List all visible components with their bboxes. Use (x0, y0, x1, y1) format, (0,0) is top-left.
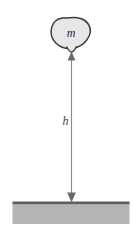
ground-surface-line (13, 202, 130, 205)
height-label: h (63, 114, 69, 128)
diagram-svg: m h (0, 0, 139, 228)
mass-label: m (67, 26, 76, 40)
ground-slab (13, 204, 130, 225)
physics-diagram-canvas: m h (0, 0, 139, 228)
